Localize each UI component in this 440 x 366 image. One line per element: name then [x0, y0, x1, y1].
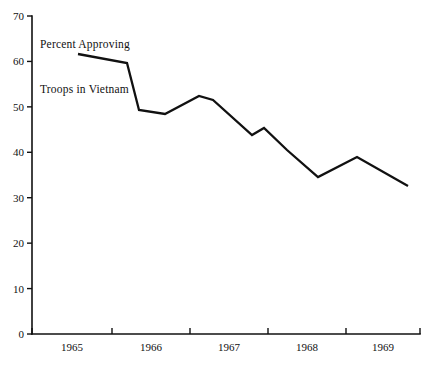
x-axis-ticks: 19651966196719681969	[32, 328, 420, 353]
x-tick-label: 1967	[218, 341, 241, 353]
y-tick-label: 70	[13, 10, 25, 22]
line-chart-plot: 010203040506070 19651966196719681969	[0, 0, 440, 366]
y-tick-label: 30	[13, 192, 25, 204]
data-series-group	[78, 54, 408, 186]
chart-container: Percent Approving Troops in Vietnam 0102…	[0, 0, 440, 366]
y-tick-label: 0	[19, 328, 25, 340]
y-axis: 010203040506070	[13, 10, 32, 340]
y-tick-label: 60	[13, 55, 25, 67]
y-axis-ticks: 010203040506070	[13, 10, 32, 340]
y-tick-label: 10	[13, 283, 25, 295]
x-axis: 19651966196719681969	[32, 328, 420, 353]
y-tick-label: 40	[13, 146, 25, 158]
y-tick-label: 50	[13, 101, 25, 113]
data-series-line	[78, 54, 408, 186]
x-tick-label: 1969	[372, 341, 395, 353]
x-tick-label: 1965	[61, 341, 84, 353]
x-tick-label: 1966	[140, 341, 163, 353]
x-tick-label: 1968	[296, 341, 319, 353]
y-tick-label: 20	[13, 237, 25, 249]
